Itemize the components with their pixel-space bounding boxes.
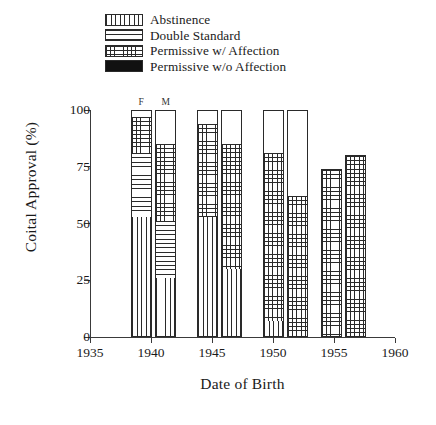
bar-segment	[155, 110, 176, 144]
bar-segment	[131, 110, 152, 117]
bar-segment	[287, 196, 308, 337]
bar-segment	[321, 169, 342, 337]
x-axis-tick-mark	[90, 338, 91, 343]
bar-segment	[155, 144, 176, 221]
bar-segment	[197, 110, 218, 124]
x-axis-tick-label: 1940	[121, 345, 181, 360]
x-axis-tick-label: 1955	[304, 345, 364, 360]
stacked-bar	[263, 110, 284, 337]
y-axis-title: Coital Approval (%)	[22, 92, 40, 282]
x-axis-tick-label: 1950	[243, 345, 303, 360]
bar-segment	[345, 155, 366, 337]
bar-group-label: M	[151, 97, 181, 107]
bar-segment	[155, 278, 176, 337]
x-axis-tick-mark	[334, 338, 335, 343]
y-axis-tick-label: 75	[54, 160, 90, 174]
x-axis-title: Date of Birth	[90, 375, 395, 393]
y-axis-tick-label: 25	[54, 273, 90, 287]
stacked-bar	[221, 110, 242, 337]
y-axis-line	[90, 110, 91, 338]
bar-segment	[221, 269, 242, 337]
bar-segment	[263, 110, 284, 153]
stacked-bar	[197, 110, 218, 337]
bar-segment	[131, 117, 152, 153]
bar-segment	[131, 153, 152, 217]
bar-segment	[155, 221, 176, 278]
plot-area: 0255075100 193519401945195019551960 FM C…	[0, 0, 436, 425]
x-axis-tick-mark	[151, 338, 152, 343]
stacked-bar	[155, 110, 176, 337]
y-axis-tick-label: 0	[54, 330, 90, 344]
x-axis-tick-mark	[273, 338, 274, 343]
x-axis-line	[90, 337, 395, 338]
x-axis-tick-mark	[395, 338, 396, 343]
stacked-bar	[345, 110, 366, 337]
bar-segment	[287, 110, 308, 196]
bar-segment	[221, 144, 242, 269]
x-axis-tick-label: 1960	[365, 345, 425, 360]
stacked-bar	[287, 110, 308, 337]
y-axis-tick-label: 50	[54, 217, 90, 231]
stacked-bar	[321, 110, 342, 337]
stacked-bar	[131, 110, 152, 337]
x-axis-tick-label: 1945	[182, 345, 242, 360]
bar-segment	[197, 217, 218, 337]
y-axis-tick-label: 100	[54, 103, 90, 117]
chart-figure: AbstinenceDouble StandardPermissive w/ A…	[0, 0, 436, 425]
x-axis-tick-label: 1935	[60, 345, 120, 360]
bar-segment	[263, 153, 284, 321]
bar-segment	[131, 217, 152, 337]
x-axis-tick-mark	[212, 338, 213, 343]
bar-segment	[263, 321, 284, 337]
bar-segment	[197, 124, 218, 217]
bar-segment	[221, 110, 242, 144]
